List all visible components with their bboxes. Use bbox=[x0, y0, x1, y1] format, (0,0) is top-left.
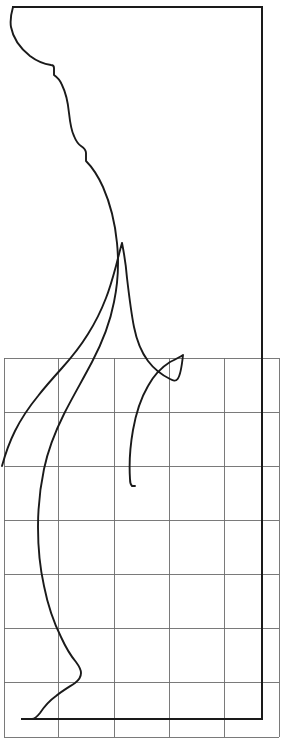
grid-horizontal-lines bbox=[4, 358, 279, 737]
profile-drawing-svg bbox=[0, 0, 288, 741]
outer-profile-curve bbox=[11, 7, 118, 719]
grid-vertical-lines bbox=[4, 358, 279, 737]
inner-profile-curve bbox=[2, 243, 183, 486]
measuring-grid bbox=[4, 358, 279, 737]
drawing-canvas bbox=[0, 0, 288, 741]
